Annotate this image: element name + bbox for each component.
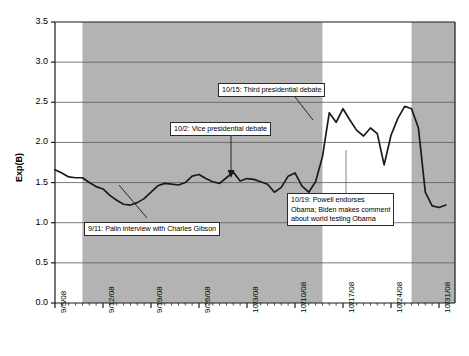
chart-container: Exp(B) 0.00.51.01.52.02.53.03.5 9/5/089/…	[0, 0, 469, 356]
y-tick-label: 1.0	[22, 217, 48, 227]
x-tick-label: 10/3/08	[251, 286, 260, 313]
annotation-third-debate: 10/15: Third presidential debate	[218, 83, 325, 97]
annotation-powell-endorsement: 10/19: Powell endorses Obama; Biden make…	[287, 193, 394, 226]
x-tick-label: 9/26/08	[203, 286, 212, 313]
annotation-line: 9/11: Palin interview with Charles Gibso…	[88, 224, 216, 234]
x-tick-label: 9/12/08	[107, 286, 116, 313]
x-tick-label: 10/31/08	[443, 282, 452, 313]
annotation-line: Obama; Biden makes comment	[291, 205, 390, 215]
annotation-palin-interview: 9/11: Palin interview with Charles Gibso…	[84, 222, 220, 236]
annotation-line: 10/19: Powell endorses	[291, 195, 390, 205]
y-tick-label: 0.5	[22, 257, 48, 267]
annotation-line: 10/15: Third presidential debate	[222, 85, 321, 95]
annotation-vp-debate: 10/2: Vice presidential debate	[170, 122, 271, 136]
x-tick-label: 10/24/08	[395, 282, 404, 313]
y-tick-label: 2.5	[22, 96, 48, 106]
y-tick-label: 3.5	[22, 16, 48, 26]
y-tick-label: 1.5	[22, 177, 48, 187]
x-tick-label: 9/5/08	[59, 291, 68, 313]
annotation-line: 10/2: Vice presidential debate	[174, 124, 267, 134]
y-tick-label: 3.0	[22, 56, 48, 66]
x-tick-label: 10/10/08	[299, 282, 308, 313]
y-tick-label: 0.0	[22, 297, 48, 307]
x-tick-label: 9/19/08	[155, 286, 164, 313]
annotation-line: about world testing Obama	[291, 214, 390, 224]
y-tick-label: 2.0	[22, 136, 48, 146]
shaded-bands-group	[82, 22, 455, 303]
x-tick-label: 10/17/08	[347, 282, 356, 313]
